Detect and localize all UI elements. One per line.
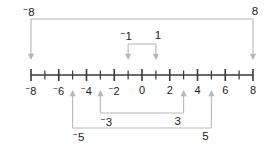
number-line-figure: −8−6−4−202468−88−11−33−55 [0, 0, 267, 145]
axis-tick-label: −6 [53, 85, 64, 97]
axis-tick-label: 2 [167, 85, 173, 96]
bracket-label-left-pair-1: −1 [120, 30, 131, 43]
arrow-down-icon [250, 54, 256, 60]
bracket-label-left-pair-3: −3 [101, 116, 112, 129]
bracket-label-right-pair-8: 8 [252, 6, 258, 18]
axis-tick-label: 8 [250, 85, 256, 96]
arrow-down-icon [28, 54, 34, 60]
axis-tick-label: −2 [109, 85, 120, 97]
arrow-down-icon [153, 54, 159, 60]
number-line-canvas [0, 0, 267, 145]
axis-tick-label: 0 [139, 85, 145, 96]
axis-tick-label: 4 [194, 85, 200, 96]
bracket-label-right-pair-5: 5 [202, 131, 208, 143]
bracket-label-left-pair-5: −5 [73, 131, 84, 144]
arrow-up-icon [70, 90, 76, 96]
axis-tick-label: −4 [81, 85, 92, 97]
axis-tick-label: 6 [222, 85, 228, 96]
arrow-up-icon [97, 90, 103, 96]
bracket-label-right-pair-3: 3 [174, 116, 180, 128]
bracket-pair-1 [125, 44, 159, 60]
bracket-label-left-pair-8: −8 [23, 6, 34, 19]
arrow-up-icon [181, 90, 187, 96]
bracket-label-right-pair-1: 1 [155, 30, 161, 42]
arrow-up-icon [208, 90, 214, 96]
bracket-pair-8 [28, 19, 256, 60]
arrow-down-icon [125, 54, 131, 60]
axis-tick-label: −8 [26, 85, 37, 97]
